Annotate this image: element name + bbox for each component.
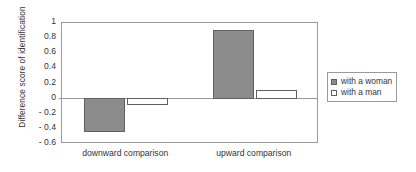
plot-area xyxy=(61,22,318,143)
y-axis-tick-label: 0.8 xyxy=(24,32,56,41)
bar xyxy=(256,90,297,99)
y-axis-tick-label: - 0.4 xyxy=(24,123,56,132)
legend-swatch-icon xyxy=(331,79,337,85)
y-axis-tick-label: 0.6 xyxy=(24,47,56,56)
legend-item: with a man xyxy=(331,87,392,98)
y-axis-tick-label: 0 xyxy=(24,93,56,102)
legend-item: with a woman xyxy=(331,76,392,87)
legend-item-label: with a woman xyxy=(341,77,392,86)
y-axis-tick-label: - 0.2 xyxy=(24,108,56,117)
y-axis-tick-label: 0.4 xyxy=(24,62,56,71)
legend-item-label: with a man xyxy=(341,88,382,97)
bar xyxy=(84,98,125,132)
bar-chart-figure: Difference score of identification 10.80… xyxy=(0,0,416,172)
y-axis-tick-label: 1 xyxy=(24,17,56,26)
bar xyxy=(213,30,254,98)
legend-swatch-icon xyxy=(331,90,337,96)
x-axis-category-label: upward comparison xyxy=(184,148,324,158)
zero-tick-mark xyxy=(59,98,62,99)
y-axis-tick-label: - 0.6 xyxy=(24,138,56,147)
y-axis-tick-label: 0.2 xyxy=(24,78,56,87)
bar xyxy=(127,98,168,105)
legend-box: with a womanwith a man xyxy=(327,72,397,102)
x-axis-category-label: downward comparison xyxy=(55,148,195,158)
y-axis-tick-labels: 10.80.60.40.20- 0.2- 0.4- 0.6 xyxy=(24,22,56,143)
